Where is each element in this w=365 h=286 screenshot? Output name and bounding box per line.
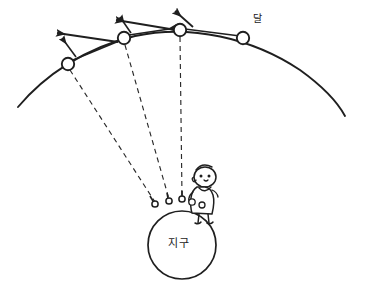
velocity-vector-4: [62, 38, 76, 57]
velocity-vector-5: [120, 17, 131, 33]
earth-label: 지구: [168, 238, 190, 249]
gravity-radial-2: [125, 45, 169, 199]
moon-node-1: [62, 58, 74, 70]
falling-marker-1: [150, 196, 158, 207]
falling-marker-2: [166, 193, 172, 204]
gravity-radial-3: [180, 37, 182, 197]
observer-head: [194, 167, 216, 187]
falling-marker-3: [179, 191, 185, 202]
diagram-canvas: 달 지구: [0, 0, 365, 286]
gravity-radial-1: [70, 70, 155, 202]
falling-markers: [150, 191, 185, 207]
moon-node-3: [174, 24, 186, 36]
velocity-vector-1: [57, 33, 118, 42]
moon-node-2: [118, 32, 130, 44]
moon-node-4: [237, 32, 249, 44]
gravity-radial-lines: [70, 37, 182, 202]
chord-1-to-2: [73, 41, 119, 60]
moon-label: 달: [253, 14, 262, 24]
